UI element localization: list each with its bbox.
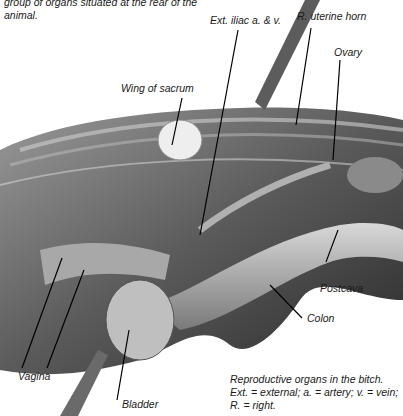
label-bladder: Bladder — [122, 398, 158, 410]
anatomical-illustration — [0, 0, 403, 416]
label-colon: Colon — [307, 312, 334, 324]
label-ext-iliac: Ext. iliac a. & v. — [210, 14, 281, 26]
label-postcava: Postcava — [320, 282, 363, 294]
figure-caption: Reproductive organs in the bitch. Ext. =… — [230, 373, 400, 412]
label-uterine-horn: R. uterine horn — [297, 10, 366, 22]
label-vagina: Vagina — [18, 370, 50, 382]
label-wing-of-sacrum: Wing of sacrum — [121, 82, 194, 94]
label-ovary: Ovary — [334, 46, 362, 58]
